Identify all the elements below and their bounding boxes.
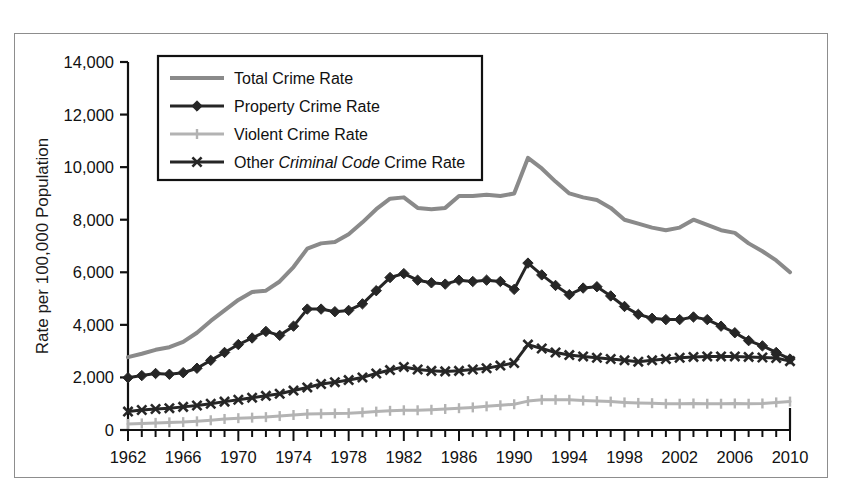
x-tick-label: 1990 — [496, 448, 533, 466]
series-marker — [178, 367, 188, 377]
series-marker — [247, 333, 257, 343]
series-marker — [468, 276, 478, 286]
series-marker — [123, 372, 133, 382]
y-axis-title: Rate per 100,000 Population — [33, 138, 52, 354]
x-tick-label: 1966 — [165, 448, 202, 466]
series-marker — [757, 341, 767, 351]
legend-label: Other Criminal Code Crime Rate — [234, 154, 465, 171]
series-marker — [316, 304, 326, 314]
x-tick-label: 1986 — [441, 448, 478, 466]
y-tick-label: 14,000 — [64, 53, 114, 71]
series-marker — [343, 305, 353, 315]
series-marker — [578, 283, 588, 293]
series-marker — [674, 314, 684, 324]
series-marker — [702, 314, 712, 324]
y-tick-label: 12,000 — [64, 106, 114, 124]
x-tick-label: 1962 — [110, 448, 147, 466]
x-tick-label: 1982 — [385, 448, 422, 466]
series-marker — [688, 312, 698, 322]
series-marker — [137, 370, 147, 380]
y-tick-label: 2,000 — [73, 368, 114, 386]
series-marker — [454, 275, 464, 285]
y-tick-label: 6,000 — [73, 263, 114, 281]
series-group — [123, 158, 795, 429]
y-tick-label: 4,000 — [73, 316, 114, 334]
x-tick-label: 1978 — [330, 448, 367, 466]
x-tick-label: 2006 — [716, 448, 753, 466]
line-chart: 02,0004,0006,0008,00010,00012,00014,0001… — [0, 0, 851, 502]
series-marker — [150, 368, 160, 378]
series-1 — [128, 158, 790, 357]
series-marker — [440, 279, 450, 289]
x-tick-group: 1962196619701974197819821986199019941998… — [110, 430, 809, 466]
y-tick-label: 0 — [105, 421, 114, 439]
series-2 — [123, 258, 795, 383]
chart-figure: 02,0004,0006,0008,00010,00012,00014,0001… — [0, 0, 851, 502]
x-tick-label: 1994 — [551, 448, 588, 466]
x-tick-label: 1974 — [275, 448, 312, 466]
legend: Total Crime RateProperty Crime RateViole… — [158, 56, 482, 180]
series-line — [128, 158, 790, 357]
series-marker — [412, 275, 422, 285]
series-marker — [426, 278, 436, 288]
y-tick-label: 10,000 — [64, 158, 114, 176]
legend-label: Total Crime Rate — [234, 70, 353, 87]
series-marker — [661, 314, 671, 324]
series-marker — [164, 369, 174, 379]
series-marker — [261, 326, 271, 336]
y-tick-label: 8,000 — [73, 211, 114, 229]
x-tick-label: 2002 — [661, 448, 698, 466]
series-marker — [399, 268, 409, 278]
legend-label: Property Crime Rate — [234, 98, 380, 115]
x-tick-label: 1970 — [220, 448, 257, 466]
legend-label: Violent Crime Rate — [234, 126, 368, 143]
series-marker — [330, 307, 340, 317]
y-tick-group: 02,0004,0006,0008,00010,00012,00014,000 — [64, 53, 128, 439]
series-marker — [647, 313, 657, 323]
x-tick-label: 1998 — [606, 448, 643, 466]
x-tick-label: 2010 — [772, 448, 809, 466]
series-marker — [716, 321, 726, 331]
series-marker — [481, 275, 491, 285]
